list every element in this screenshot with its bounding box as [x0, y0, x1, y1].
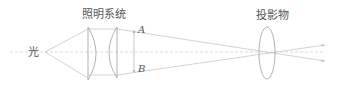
condenser-lens-2: [109, 27, 117, 78]
optical-diagram: 光 照明系统 A B 投影物: [0, 0, 340, 93]
point-b-label: B: [138, 64, 145, 74]
point-a-label: A: [138, 25, 145, 35]
ray-converge-lower: [117, 45, 325, 75]
ray-source-upper: [45, 29, 88, 52]
diagram-canvas: [0, 0, 340, 93]
condenser-lens-1: [88, 27, 96, 80]
projected-object-label: 投影物: [256, 10, 289, 21]
ray-converge-upper: [117, 29, 325, 61]
illumination-system-label: 照明系统: [82, 9, 126, 20]
light-source-label: 光: [28, 47, 39, 58]
ray-source-lower: [45, 52, 88, 78]
